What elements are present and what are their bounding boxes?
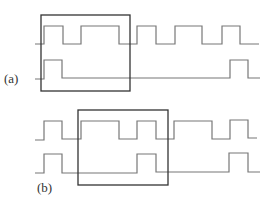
panel-a bbox=[35, 15, 260, 91]
panel-b-label: (b) bbox=[37, 181, 52, 194]
waveform-signal-bottom bbox=[35, 60, 260, 79]
panel-a-label: (a) bbox=[4, 72, 18, 85]
timing-diagram: (a) (b) bbox=[0, 0, 274, 201]
waveform-signal-bottom bbox=[35, 153, 260, 173]
waveform-signal-top bbox=[35, 26, 259, 44]
panel-b bbox=[35, 110, 260, 185]
waveform-canvas bbox=[0, 0, 274, 201]
waveform-signal-top bbox=[35, 120, 257, 140]
